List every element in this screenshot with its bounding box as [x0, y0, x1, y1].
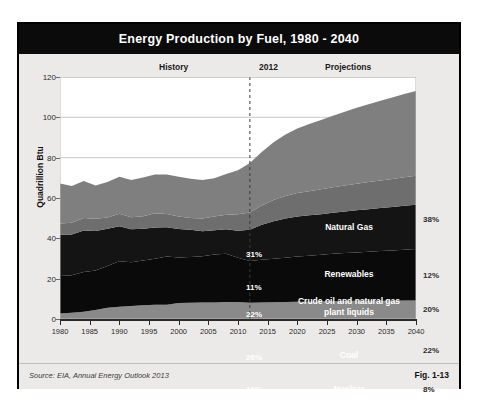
y-axis-tick-label: 120 [43, 73, 56, 82]
figure-title-bar: Energy Production by Fuel, 1980 - 2040 [19, 24, 459, 54]
share-2012-label: 22% [246, 310, 262, 319]
x-axis-tick [60, 319, 61, 325]
share-2040-label: 8% [423, 385, 435, 394]
annotation-divider-year: 2012 [259, 62, 278, 72]
x-axis-tick [357, 319, 358, 325]
series-label: Nuclear [289, 384, 409, 395]
annotation-projections: Projections [325, 62, 371, 72]
x-axis-tick [208, 319, 209, 325]
x-axis-tick-label: 1980 [52, 327, 69, 336]
x-axis-tick [179, 319, 180, 325]
x-axis-tick-label: 2005 [200, 327, 217, 336]
x-axis-tick [238, 319, 239, 325]
x-axis-tick-label: 2010 [230, 327, 247, 336]
x-axis-tick-label: 2040 [408, 327, 425, 336]
x-axis-tick [90, 319, 91, 325]
x-axis-tick-label: 1990 [111, 327, 128, 336]
series-label: Renewables [289, 269, 409, 280]
series-label: Crude oil and natural gas plant liquids [289, 296, 409, 318]
x-axis-tick-label: 2030 [348, 327, 365, 336]
series-label: Coal [289, 350, 409, 361]
x-axis-tick-label: 2000 [170, 327, 187, 336]
x-axis-tick-label: 2015 [259, 327, 276, 336]
share-2040-label: 20% [423, 305, 439, 314]
share-2040-label: 38% [423, 215, 439, 224]
source-note: Source: EIA, Annual Energy Outlook 2013 [29, 371, 169, 380]
x-axis-tick-label: 1995 [141, 327, 158, 336]
x-axis-tick [416, 319, 417, 325]
share-2040-label: 22% [423, 346, 439, 355]
chart-body: History 2012 Projections 020406080100120… [19, 54, 459, 389]
share-2012-label: 31% [246, 250, 262, 259]
x-axis-tick-label: 2025 [319, 327, 336, 336]
share-2012-label: 10% [246, 385, 262, 394]
y-axis-tick-label: 100 [43, 113, 56, 122]
x-axis-tick-label: 2020 [289, 327, 306, 336]
y-axis-tick-label: 60 [47, 194, 56, 203]
plot-area [60, 77, 416, 319]
share-2012-label: 26% [246, 353, 262, 362]
x-axis-tick [297, 319, 298, 325]
figure-container: Energy Production by Fuel, 1980 - 2040 H… [17, 22, 461, 389]
x-axis-tick [119, 319, 120, 325]
y-axis-label: Quadrillion Btu [35, 122, 45, 232]
y-axis-tick-label: 80 [47, 153, 56, 162]
y-axis-tick-label: 40 [47, 234, 56, 243]
share-2012-label: 11% [246, 283, 262, 292]
x-axis-tick-label: 1985 [81, 327, 98, 336]
x-axis-tick [149, 319, 150, 325]
x-axis: 1980198519901995200020052010201520202025… [60, 319, 416, 349]
x-axis-tick [386, 319, 387, 325]
stacked-area-svg [60, 77, 416, 319]
x-axis-tick [268, 319, 269, 325]
share-2040-label: 12% [423, 271, 439, 280]
page-title: Energy Production by Fuel, 1980 - 2040 [119, 32, 359, 46]
y-axis-tick-label: 20 [47, 274, 56, 283]
x-axis-tick-label: 2035 [378, 327, 395, 336]
annotation-history: History [159, 62, 188, 72]
x-axis-tick [327, 319, 328, 325]
series-label: Natural Gas [289, 222, 409, 233]
figure-number: Fig. 1-13 [415, 370, 449, 380]
